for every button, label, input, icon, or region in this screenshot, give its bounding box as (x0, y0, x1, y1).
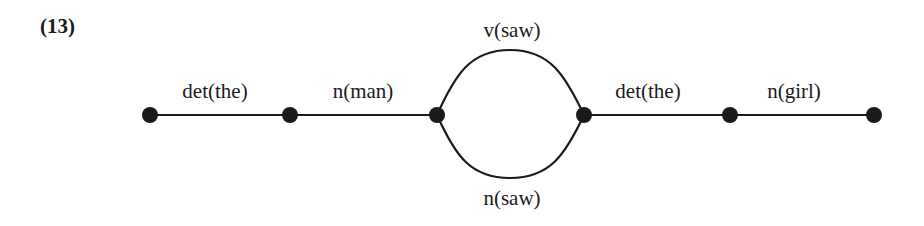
edge-label-det-the-2: det(the) (615, 81, 680, 102)
node-1 (142, 107, 158, 123)
node-3 (429, 107, 445, 123)
node-6 (866, 107, 882, 123)
edge-label-n-girl: n(girl) (767, 81, 821, 102)
node-4 (576, 107, 592, 123)
node-2 (282, 107, 298, 123)
edge-label-det-the-1: det(the) (182, 81, 247, 102)
lattice-diagram (0, 0, 924, 226)
edge-label-n-man: n(man) (333, 81, 394, 102)
edge-v-saw-upper-arc (437, 50, 584, 115)
node-5 (722, 107, 738, 123)
edge-n-saw-lower-arc (437, 115, 584, 178)
edge-label-v-saw: v(saw) (483, 20, 540, 41)
edge-label-n-saw: n(saw) (483, 188, 540, 209)
